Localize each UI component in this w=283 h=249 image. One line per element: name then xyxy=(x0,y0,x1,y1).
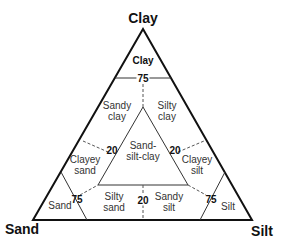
region-sand-silt-clay: Sand- silt-clay xyxy=(126,140,159,162)
threshold-clay-75: 75 xyxy=(136,73,149,84)
right-20-dashed xyxy=(178,141,204,152)
region-clayey-silt: Clayey silt xyxy=(182,154,213,176)
region-label-line: Sandy xyxy=(103,100,131,111)
region-label-line: silt-clay xyxy=(126,151,159,162)
region-label-line: Clayey xyxy=(70,154,101,165)
left-20-dashed xyxy=(83,141,108,152)
region-label-line: clay xyxy=(158,111,177,122)
region-sandy-clay: Sandy clay xyxy=(103,100,131,122)
corner-label-sand: Sand xyxy=(5,221,39,237)
region-label-line: Silty xyxy=(103,191,125,202)
threshold-right-20: 20 xyxy=(169,145,180,156)
region-clayey-sand: Clayey sand xyxy=(70,154,101,176)
region-clay: Clay xyxy=(132,55,153,66)
region-sandy-silt: Sandy silt xyxy=(155,191,183,213)
sand-75-dashed xyxy=(80,185,98,195)
corner-label-silt: Silt xyxy=(251,223,273,239)
region-label-line: clay xyxy=(103,111,131,122)
threshold-sand-75: 75 xyxy=(71,194,82,205)
threshold-bottom-20: 20 xyxy=(136,195,149,206)
region-label-line: Clayey xyxy=(182,154,213,165)
silt-75-dashed xyxy=(188,185,206,195)
region-silt: Silt xyxy=(221,201,235,212)
region-label-line: silt xyxy=(182,165,213,176)
region-label-line: sand xyxy=(70,165,101,176)
region-label-line: sand xyxy=(103,202,125,213)
region-label-line: Sand- xyxy=(126,140,159,151)
threshold-silt-75: 75 xyxy=(205,194,216,205)
region-label-line: silt xyxy=(155,202,183,213)
threshold-left-20: 20 xyxy=(106,145,117,156)
region-silty-clay: Silty clay xyxy=(158,100,177,122)
region-silty-sand: Silty sand xyxy=(103,191,125,213)
ternary-diagram-lines xyxy=(0,0,283,249)
region-label-line: Sandy xyxy=(155,191,183,202)
region-label-line: Silty xyxy=(158,100,177,111)
corner-label-clay: Clay xyxy=(128,10,158,26)
region-sand: Sand xyxy=(48,200,71,211)
